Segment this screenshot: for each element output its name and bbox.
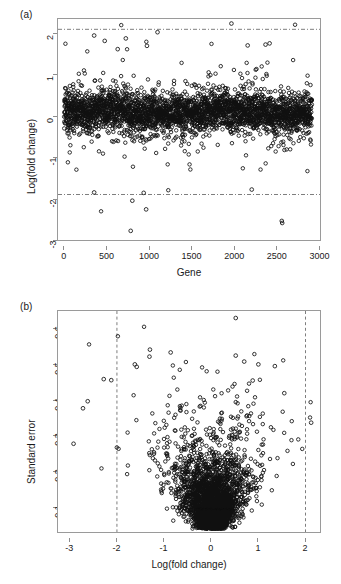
panel-b-xtick-2 xyxy=(305,538,306,542)
panel-b-xticklabel-n3: -3 xyxy=(65,544,73,553)
panel-a-xticklabel-0: 0 xyxy=(61,252,66,261)
panel-b: (b) Standard error Log(fold change) 0.6 … xyxy=(0,292,341,584)
panel-a-tag: (a) xyxy=(20,10,33,20)
panel-a-xtick-1000 xyxy=(149,246,150,250)
panel-b-xtick-1 xyxy=(257,538,258,542)
panel-a-xtick-1500 xyxy=(191,246,192,250)
panel-a-xticklabel-500: 500 xyxy=(99,252,114,261)
panel-b-xtick-n2 xyxy=(116,538,117,542)
panel-b-y-axis-title: Standard error xyxy=(27,420,37,484)
panel-a-xticklabel-2500: 2500 xyxy=(267,252,287,261)
panel-a-plot-area xyxy=(57,18,321,241)
panel-a-xticklabel-2000: 2000 xyxy=(224,252,244,261)
panel-b-tag: (b) xyxy=(20,302,33,312)
panel-a-xticklabel-1000: 1000 xyxy=(139,252,159,261)
panel-a-xtick-0 xyxy=(63,246,64,250)
panel-a: (a) Log(fold change) Gene 2 1 0 -1 -2 -3… xyxy=(0,0,341,292)
panel-a-y-axis-title: Log(fold change) xyxy=(27,119,37,194)
figure-root: (a) Log(fold change) Gene 2 1 0 -1 -2 -3… xyxy=(0,0,341,584)
panel-b-plot-area xyxy=(57,310,321,533)
panel-b-xtick-n1 xyxy=(163,538,164,542)
panel-a-xticklabel-1500: 1500 xyxy=(182,252,202,261)
panel-b-xticklabel-n2: -2 xyxy=(112,544,120,553)
panel-b-xticklabel-2: 2 xyxy=(303,544,308,553)
panel-a-xticklabel-3000: 3000 xyxy=(309,252,329,261)
panel-b-xticklabel-1: 1 xyxy=(255,544,260,553)
panel-b-xticklabel-n1: -1 xyxy=(160,544,168,553)
panel-a-data-layer xyxy=(58,19,321,241)
panel-b-data-layer xyxy=(58,311,321,533)
panel-b-xticklabel-0: 0 xyxy=(208,544,213,553)
panel-b-xtick-0 xyxy=(210,538,211,542)
panel-b-x-axis-title: Log(fold change) xyxy=(57,560,321,570)
panel-a-xtick-3000 xyxy=(319,246,320,250)
panel-b-xtick-n3 xyxy=(69,538,70,542)
panel-a-xtick-2500 xyxy=(276,246,277,250)
panel-a-xtick-2000 xyxy=(234,246,235,250)
panel-a-xtick-500 xyxy=(106,246,107,250)
panel-a-x-axis-title: Gene xyxy=(57,268,321,278)
